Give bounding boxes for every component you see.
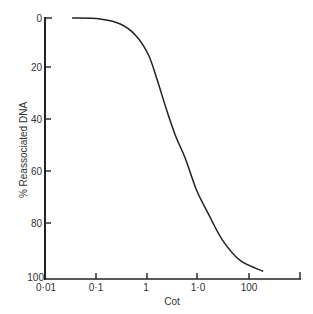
reassociation-curve <box>72 18 263 271</box>
x-tick-label-100: 100 <box>241 282 258 293</box>
x-tick-label-0-01: 0·01 <box>36 282 56 293</box>
y-tick-label-60: 60 <box>31 166 43 177</box>
y-tick-label-80: 80 <box>31 218 43 229</box>
y-tick-label-40: 40 <box>31 114 43 125</box>
x-ticks <box>96 272 300 279</box>
x-tick-label-1-0: 1·0 <box>191 282 206 293</box>
y-ticks <box>45 18 52 223</box>
x-axis-title: Cot <box>164 296 180 307</box>
y-tick-label-20: 20 <box>31 62 43 73</box>
y-tick-label-0: 0 <box>36 13 42 24</box>
y-axis-title: % Reassociated DNA <box>18 102 29 198</box>
x-tick-label-0-1: 0·1 <box>89 282 104 293</box>
x-tick-label-1: 1 <box>143 282 149 293</box>
chart-canvas: 0 20 40 60 80 100 0·01 0·1 1 1·0 100 Cot… <box>0 0 313 314</box>
